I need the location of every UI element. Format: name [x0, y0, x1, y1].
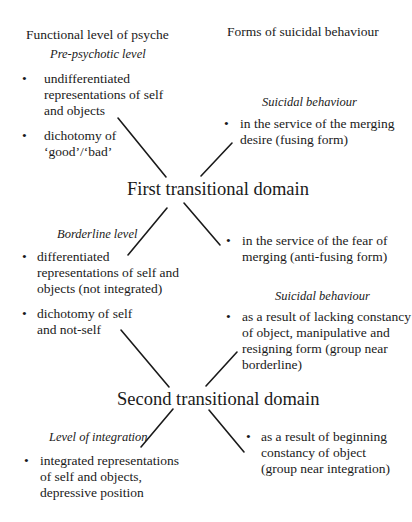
first-transitional-domain: First transitional domain — [127, 178, 309, 200]
bullet-icon: • — [22, 71, 32, 87]
label-suicidal-behaviour-second: Suicidal behaviour — [275, 288, 370, 304]
bullet-icon: • — [24, 453, 34, 469]
connector-fusing-to-first-domain — [201, 143, 232, 176]
label-suicidal-behaviour-first: Suicidal behaviour — [262, 94, 357, 110]
bullet-icon: • — [22, 249, 32, 265]
connector-borderline-to-second-domain — [121, 330, 169, 387]
bullet-icon: • — [22, 128, 32, 144]
header-forms-of-suicidal-behaviour: Forms of suicidal behaviour — [227, 24, 379, 40]
bullet-icon: • — [226, 233, 236, 249]
connector-pre-psychotic-to-first-domain — [118, 118, 166, 177]
bullet-icon: • — [224, 116, 234, 132]
label-pre-psychotic-level: Pre-psychotic level — [50, 46, 146, 62]
label-borderline-level: Borderline level — [57, 226, 137, 242]
header-functional-level: Functional level of psyche — [26, 27, 169, 43]
connector-second-domain-to-beginning-constancy — [209, 410, 244, 452]
bullet-icon: • — [246, 429, 256, 445]
label-level-of-integration: Level of integration — [49, 429, 148, 445]
second-transitional-domain: Second transitional domain — [117, 388, 319, 410]
connector-manipulative-to-second-domain — [206, 352, 237, 386]
connector-first-domain-to-anti-fusing — [184, 203, 220, 245]
bullet-icon: • — [226, 309, 236, 325]
bullet-icon: • — [22, 306, 32, 322]
